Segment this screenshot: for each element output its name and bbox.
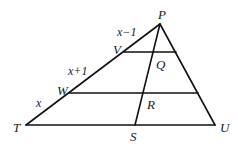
label-R: R	[146, 97, 155, 112]
label-segment-PV: x−1	[116, 25, 136, 39]
label-T: T	[13, 120, 21, 135]
label-V: V	[113, 42, 123, 57]
side-PT	[26, 24, 160, 125]
label-Q: Q	[156, 57, 166, 72]
label-W: W	[57, 83, 69, 98]
label-U: U	[220, 120, 231, 135]
side-PU	[160, 24, 215, 125]
label-S: S	[130, 129, 137, 144]
label-segment-VW: x+1	[67, 64, 87, 78]
label-P: P	[157, 7, 166, 22]
label-segment-WT: x	[35, 96, 42, 110]
triangle-diagram: P T U S V W Q R x−1 x+1 x	[0, 0, 238, 148]
